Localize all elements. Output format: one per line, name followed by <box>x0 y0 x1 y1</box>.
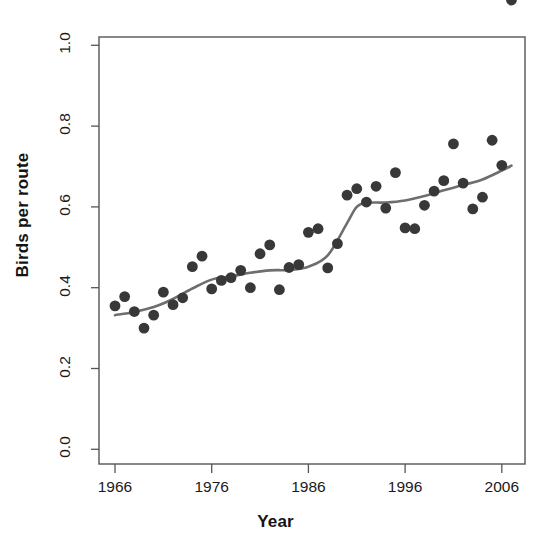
data-point <box>158 287 169 298</box>
y-axis-tick-label-text: 1.0 <box>56 33 74 55</box>
data-point <box>139 323 150 334</box>
y-axis-tick-label: 0.8 <box>45 115 85 133</box>
data-point <box>187 261 198 272</box>
y-axis-tick-label-text: 0.8 <box>56 113 74 135</box>
data-point <box>177 292 188 303</box>
data-point <box>458 178 469 189</box>
data-point <box>322 263 333 274</box>
data-point <box>245 282 256 293</box>
data-point <box>129 306 140 317</box>
data-point <box>226 272 237 283</box>
y-axis-tick-label: 0.6 <box>45 196 85 214</box>
x-axis-tick-label: 1996 <box>375 478 435 496</box>
data-point <box>400 223 411 234</box>
data-point <box>351 183 362 194</box>
x-axis-tick-label: 2006 <box>472 478 532 496</box>
data-point <box>477 192 488 203</box>
y-axis-tick-label: 0.4 <box>45 277 85 295</box>
data-point <box>206 284 217 295</box>
y-axis-tick-label-text: 0.2 <box>56 356 74 378</box>
data-point <box>235 265 246 276</box>
data-point <box>293 259 304 270</box>
data-point <box>303 227 314 238</box>
y-axis-tick-label-text: 0.4 <box>56 275 74 297</box>
y-axis-tick-label: 0.0 <box>45 438 85 456</box>
data-point <box>264 239 275 250</box>
data-point <box>110 300 121 311</box>
data-point <box>419 200 430 211</box>
x-axis-tick-label: 1966 <box>85 478 145 496</box>
data-point <box>274 284 285 295</box>
data-point <box>467 204 478 215</box>
y-axis-tick-label-text: 0.6 <box>56 194 74 216</box>
x-axis-tick-label: 1986 <box>278 478 338 496</box>
data-point <box>506 0 517 5</box>
data-point <box>216 275 227 286</box>
plot-frame <box>99 37 525 464</box>
data-point <box>448 138 459 149</box>
data-point <box>487 135 498 146</box>
y-axis-tick-label-text: 0.0 <box>56 437 74 459</box>
data-point <box>255 248 266 259</box>
data-point <box>148 310 159 321</box>
data-point <box>390 167 401 178</box>
data-point <box>342 190 353 201</box>
data-point <box>168 299 179 310</box>
data-point <box>496 160 507 171</box>
y-axis-tick-label: 1.0 <box>45 34 85 52</box>
x-axis-tick-label: 1976 <box>182 478 242 496</box>
data-point <box>313 223 324 234</box>
data-point <box>361 197 372 208</box>
trend-line <box>115 166 511 315</box>
data-point <box>438 175 449 186</box>
data-point <box>332 238 343 249</box>
data-point <box>409 223 420 234</box>
data-point <box>380 203 391 214</box>
data-point <box>284 262 295 273</box>
y-axis-tick-label: 0.2 <box>45 358 85 376</box>
data-point <box>119 291 130 302</box>
chart-figure: Birds per route Year 0.00.20.40.60.81.01… <box>0 0 551 557</box>
data-point <box>197 251 208 262</box>
data-point <box>371 181 382 192</box>
data-point <box>429 186 440 197</box>
